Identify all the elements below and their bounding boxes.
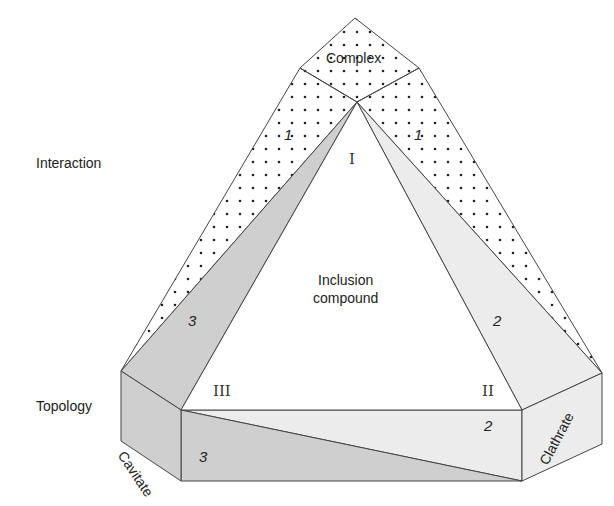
center-label-line2: compound	[313, 290, 378, 306]
center-label-line1: Inclusion	[318, 272, 373, 288]
band-number-bottom-left: 3	[199, 448, 207, 465]
inclusion-compound-diagram	[0, 0, 614, 506]
band-number-left-upper: 1	[284, 126, 292, 143]
topology-label: Topology	[36, 398, 92, 414]
band-number-left: 3	[188, 312, 196, 329]
complex-label: Complex	[326, 50, 381, 66]
roman-left: III	[213, 382, 231, 400]
interaction-label: Interaction	[36, 155, 101, 171]
roman-top: I	[349, 150, 355, 168]
roman-right: II	[482, 382, 494, 400]
band-number-right-upper: 1	[414, 126, 422, 143]
band-number-right: 2	[493, 312, 501, 329]
band-number-bottom-right: 2	[484, 417, 492, 434]
